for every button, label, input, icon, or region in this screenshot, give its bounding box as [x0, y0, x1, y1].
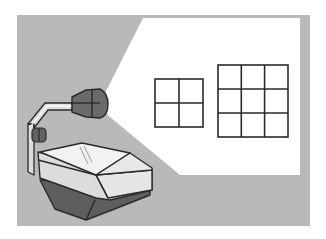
- overhead-projector-illustration: [0, 0, 326, 239]
- arm-knob: [32, 128, 46, 142]
